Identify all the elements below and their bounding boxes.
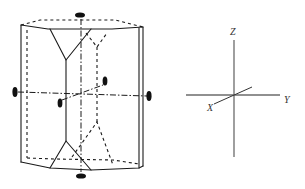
crystal-symmetry-diagram: Z X Y: [0, 0, 305, 189]
top-face-front-edges: [21, 25, 143, 29]
top-face-back-edges: [21, 20, 143, 27]
top-2fold-marker-icon: [75, 12, 85, 17]
y-axis-label: Y: [284, 94, 291, 105]
bottom-face: [21, 158, 143, 170]
right-2fold-marker-icon: [146, 91, 151, 101]
upper-wedge: [50, 29, 107, 60]
coordinate-axes-key: Z X Y: [186, 26, 291, 157]
inner-front-2fold-marker-icon: [58, 98, 63, 107]
inner-upper-2fold-marker-icon: [103, 76, 108, 85]
lower-wedge-back: [72, 122, 113, 165]
bottom-2fold-marker-icon: [76, 173, 86, 178]
prism-vertical-edges: [21, 25, 143, 168]
lower-wedge-front: [50, 141, 91, 170]
x-axis-label: X: [206, 102, 214, 113]
top-face: [21, 20, 143, 29]
left-2fold-marker-icon: [12, 87, 17, 97]
bottom-face-front-edges: [21, 162, 143, 170]
upper-wedge-back: [86, 33, 107, 47]
symmetry-axes: [18, 19, 147, 172]
upper-wedge-front: [50, 29, 91, 60]
horizontal-2fold-axis-left-right: [18, 92, 147, 96]
z-axis-label: Z: [230, 26, 236, 37]
hexagonal-prism-crystal: [12, 12, 151, 178]
